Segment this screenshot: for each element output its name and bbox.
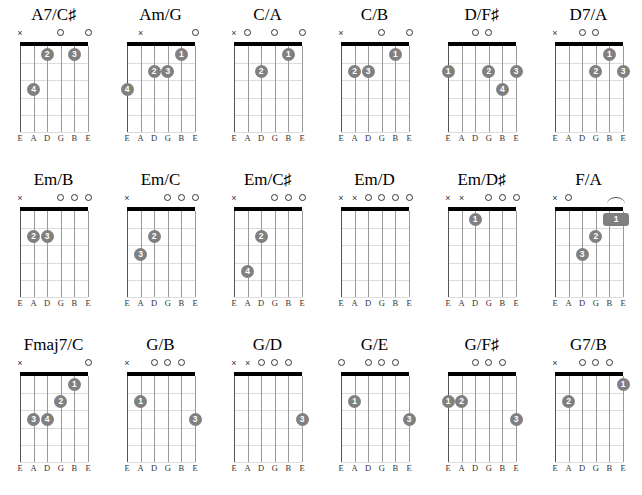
nut <box>127 372 195 376</box>
string-line <box>395 211 396 297</box>
string-line <box>302 46 303 132</box>
string-line <box>141 376 142 462</box>
string-line <box>341 376 342 462</box>
nut <box>555 372 623 376</box>
string-name-label: A <box>242 297 253 309</box>
finger-dot: 4 <box>496 83 509 96</box>
string-line <box>395 376 396 462</box>
chord-title: F/A <box>535 171 642 188</box>
fret-line <box>341 98 409 99</box>
chord-diagram: Em/C×23EADGBE <box>107 165 214 330</box>
fret-line <box>448 445 516 446</box>
open-string-marker-icon <box>472 359 479 366</box>
string-name-label: E <box>190 462 201 474</box>
string-line <box>409 211 410 297</box>
chord-title: Em/C <box>107 171 214 188</box>
string-name-labels: EADGBE <box>535 462 642 474</box>
open-string-marker-icon <box>85 359 92 366</box>
fret-line <box>341 245 409 246</box>
string-line <box>127 376 128 462</box>
string-name-labels: EADGBE <box>535 297 642 309</box>
string-name-label: A <box>349 132 360 144</box>
string-name-label: A <box>456 132 467 144</box>
string-line <box>382 211 383 297</box>
open-string-marker-icon <box>192 29 199 36</box>
string-name-label: E <box>404 132 415 144</box>
string-name-label: E <box>511 462 522 474</box>
string-markers: × <box>321 28 428 40</box>
fret-line <box>20 80 88 81</box>
string-line <box>502 211 503 297</box>
chord-title-text: D/F <box>465 5 491 24</box>
nut <box>448 207 516 211</box>
string-line <box>355 376 356 462</box>
chord-chart-grid: A7/C♯×234EADGBEAm/G×1234EADGBEC/A×12EADG… <box>0 0 642 495</box>
string-name-label: A <box>28 297 39 309</box>
string-name-labels: EADGBE <box>0 462 107 474</box>
string-line <box>168 211 169 297</box>
fret-line <box>448 98 516 99</box>
string-line <box>582 46 583 132</box>
string-name-labels: EADGBE <box>107 462 214 474</box>
string-line <box>181 376 182 462</box>
string-name-labels: EADGBE <box>214 297 321 309</box>
fret-line <box>555 445 623 446</box>
finger-dot: 3 <box>134 248 147 261</box>
string-line <box>462 211 463 297</box>
fret-line <box>127 393 195 394</box>
open-string-marker-icon <box>392 194 399 201</box>
nut <box>20 372 88 376</box>
string-line <box>195 46 196 132</box>
string-name-label: E <box>618 297 629 309</box>
chord-title: Em/B <box>0 171 107 188</box>
fret-line <box>555 280 623 281</box>
fretboard: 12 <box>535 372 642 462</box>
string-line <box>462 46 463 132</box>
string-line <box>20 46 21 132</box>
nut <box>341 372 409 376</box>
chord-title-text: Em/D <box>457 170 498 189</box>
string-line <box>569 46 570 132</box>
fret-line <box>20 98 88 99</box>
string-line <box>261 211 262 297</box>
fret-line <box>448 393 516 394</box>
string-line <box>47 211 48 297</box>
string-name-label: E <box>122 462 133 474</box>
fret-line <box>341 228 409 229</box>
string-markers: × <box>107 358 214 370</box>
string-markers <box>428 28 535 40</box>
string-markers: ×× <box>321 193 428 205</box>
fret-line <box>234 98 302 99</box>
chord-title: G/B <box>107 336 214 353</box>
string-name-label: D <box>577 132 588 144</box>
string-name-label: G <box>483 462 494 474</box>
fret-line <box>234 280 302 281</box>
fret-line <box>234 115 302 116</box>
chord-title-text: Fmaj7/C <box>24 335 84 354</box>
string-name-labels: EADGBE <box>535 132 642 144</box>
string-name-labels: EADGBE <box>107 132 214 144</box>
nut <box>234 207 302 211</box>
string-name-label: E <box>229 132 240 144</box>
open-string-marker-icon <box>378 29 385 36</box>
muted-string-marker-icon: × <box>123 358 132 368</box>
fret-line <box>20 245 88 246</box>
open-string-marker-icon <box>299 29 306 36</box>
string-name-labels: EADGBE <box>321 297 428 309</box>
string-name-label: B <box>283 297 294 309</box>
string-name-label: B <box>497 462 508 474</box>
string-markers: × <box>535 193 642 205</box>
open-string-marker-icon <box>85 194 92 201</box>
muted-string-marker-icon: × <box>16 358 25 368</box>
string-name-label: E <box>229 297 240 309</box>
string-name-labels: EADGBE <box>321 462 428 474</box>
string-line <box>448 211 449 297</box>
fret-line <box>448 263 516 264</box>
string-markers: × <box>107 193 214 205</box>
chord-title: D7/A <box>535 6 642 23</box>
nut <box>20 207 88 211</box>
string-name-label: E <box>190 297 201 309</box>
string-name-label: D <box>577 297 588 309</box>
fret-line <box>20 445 88 446</box>
fret-line <box>341 428 409 429</box>
